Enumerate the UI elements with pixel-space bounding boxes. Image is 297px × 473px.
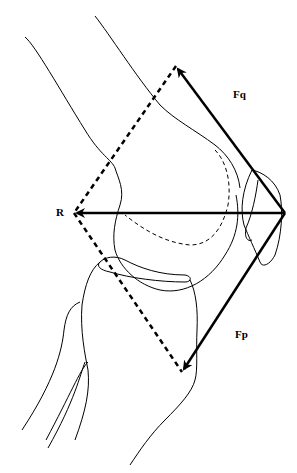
tibia-plateau-outline [98,257,190,282]
femoral-condyle-dashed-outline [125,150,229,245]
knee-force-diagram [0,0,297,473]
femur-anterior-outline [95,16,240,188]
vector-fq [178,69,285,213]
label-r: R [56,206,64,218]
fibula-outline [22,302,88,448]
femur-posterior-outline [25,37,238,291]
construction-line-fq-r [74,66,176,213]
construction-line-r-fp [74,213,182,372]
tibia-anterior-outline [130,280,197,465]
label-fp: Fp [235,328,248,340]
tibia-posterior-outline [75,262,100,440]
patella-inner-line [245,180,258,241]
label-fq: Fq [233,88,246,100]
